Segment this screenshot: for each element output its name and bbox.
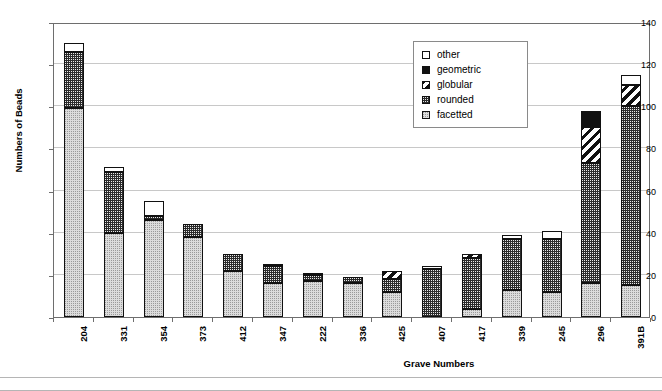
- x-tick-mark: [93, 318, 94, 322]
- x-tick-mark: [53, 318, 54, 322]
- bar-373[interactable]: [183, 22, 203, 317]
- bar-segment-other: [64, 43, 84, 51]
- bar-segment-facetted: [382, 292, 402, 317]
- legend-item-globular: globular: [422, 77, 521, 92]
- x-tick-label-407: 407: [436, 326, 447, 342]
- x-tick-mark: [371, 318, 372, 322]
- bar-segment-other: [422, 266, 442, 268]
- chart-legend: othergeometricglobularroundedfacetted: [413, 41, 528, 128]
- legend-label-rounded: rounded: [437, 95, 474, 105]
- bar-296[interactable]: [581, 22, 601, 317]
- bar-331[interactable]: [104, 22, 124, 317]
- bar-425[interactable]: [382, 22, 402, 317]
- bar-204[interactable]: [64, 22, 84, 317]
- bar-412[interactable]: [223, 22, 243, 317]
- y-tick-mark: [49, 276, 53, 277]
- bar-segment-rounded: [542, 239, 562, 292]
- legend-label-facetted: facetted: [437, 110, 473, 120]
- y-tick-label: 120: [641, 61, 656, 70]
- x-tick-mark: [531, 318, 532, 322]
- y-tick-label: 20: [646, 271, 656, 280]
- legend-swatch-other: [422, 51, 430, 59]
- x-axis-title-text: Grave Numbers: [404, 358, 475, 369]
- x-tick-label-339: 339: [516, 326, 527, 342]
- legend-item-facetted: facetted: [422, 107, 521, 122]
- x-axis-title: Grave Numbers: [0, 358, 662, 369]
- y-tick-mark: [49, 23, 53, 24]
- bar-segment-rounded: [621, 106, 641, 285]
- bar-segment-other: [303, 273, 323, 275]
- x-tick-label-354: 354: [158, 326, 169, 342]
- y-tick-mark: [49, 234, 53, 235]
- bar-347[interactable]: [263, 22, 283, 317]
- x-tick-mark: [252, 318, 253, 322]
- legend-item-geometric: geometric: [422, 62, 521, 77]
- bar-245[interactable]: [542, 22, 562, 317]
- y-tick-label: 80: [646, 145, 656, 154]
- y-tick-mark: [49, 107, 53, 108]
- bar-336[interactable]: [343, 22, 363, 317]
- bar-391B[interactable]: [621, 22, 641, 317]
- bar-segment-other: [502, 235, 522, 239]
- bar-222[interactable]: [303, 22, 323, 317]
- bar-segment-facetted: [223, 271, 243, 317]
- bar-segment-rounded: [64, 52, 84, 109]
- bar-segment-facetted: [621, 285, 641, 317]
- bar-segment-rounded: [382, 279, 402, 292]
- x-tick-mark: [212, 318, 213, 322]
- y-tick-label: 140: [641, 19, 656, 28]
- x-tick-label-425: 425: [396, 326, 407, 342]
- bar-segment-facetted: [581, 283, 601, 317]
- bar-segment-facetted: [64, 108, 84, 317]
- bar-segment-globular: [581, 127, 601, 163]
- x-tick-mark: [451, 318, 452, 322]
- bar-segment-other: [621, 75, 641, 86]
- bar-segment-globular: [462, 254, 482, 258]
- y-tick-mark: [49, 65, 53, 66]
- x-tick-mark: [133, 318, 134, 322]
- bar-segment-other: [542, 231, 562, 239]
- x-tick-mark: [172, 318, 173, 322]
- x-tick-label-245: 245: [556, 326, 567, 342]
- legend-item-rounded: rounded: [422, 92, 521, 107]
- bar-segment-rounded: [104, 172, 124, 233]
- bar-segment-rounded: [343, 277, 363, 283]
- y-tick-mark: [49, 192, 53, 193]
- bar-segment-facetted: [183, 237, 203, 317]
- x-tick-mark: [292, 318, 293, 322]
- chart-canvas: Numbers of Beads 020406080100120140 2043…: [0, 0, 662, 391]
- x-tick-label-222: 222: [317, 326, 328, 342]
- bar-segment-facetted: [462, 309, 482, 317]
- bar-segment-facetted: [144, 220, 164, 317]
- bar-354[interactable]: [144, 22, 164, 317]
- footer-divider: [0, 377, 662, 378]
- legend-swatch-facetted: [422, 111, 430, 119]
- bar-segment-rounded: [144, 216, 164, 220]
- x-tick-label-373: 373: [197, 326, 208, 342]
- bar-segment-rounded: [183, 224, 203, 237]
- x-tick-mark: [332, 318, 333, 322]
- bar-segment-rounded: [303, 275, 323, 281]
- bar-segment-rounded: [263, 266, 283, 283]
- bar-segment-rounded: [422, 269, 442, 317]
- legend-swatch-rounded: [422, 96, 430, 104]
- legend-label-other: other: [437, 50, 460, 60]
- x-tick-label-336: 336: [357, 326, 368, 342]
- bar-segment-rounded: [581, 163, 601, 283]
- x-tick-label-391B: 391B: [635, 326, 646, 349]
- y-tick-label: 100: [641, 103, 656, 112]
- y-tick-label: 40: [646, 229, 656, 238]
- x-tick-label-296: 296: [595, 326, 606, 342]
- bar-segment-facetted: [263, 283, 283, 317]
- x-tick-label-347: 347: [277, 326, 288, 342]
- x-tick-label-331: 331: [118, 326, 129, 342]
- x-tick-mark: [610, 318, 611, 322]
- x-tick-label-417: 417: [476, 326, 487, 342]
- y-tick-label: 60: [646, 187, 656, 196]
- y-axis-title: Numbers of Beads: [13, 51, 24, 211]
- bar-segment-facetted: [104, 233, 124, 317]
- bar-segment-globular: [382, 271, 402, 279]
- legend-swatch-globular: [422, 81, 430, 89]
- bar-segment-facetted: [542, 292, 562, 317]
- x-tick-mark: [411, 318, 412, 322]
